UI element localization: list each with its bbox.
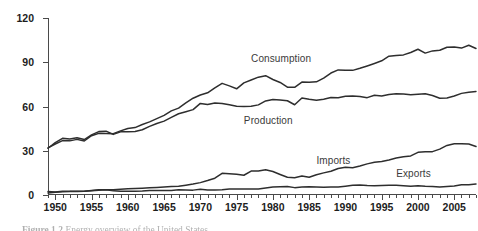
x-tick-major: [164, 195, 165, 200]
caption-text: Energy overview of the United States: [65, 225, 208, 231]
x-tick-major: [418, 195, 419, 200]
x-tick-label: 1960: [116, 201, 139, 213]
x-tick-major: [55, 195, 56, 200]
x-tick-minor: [287, 195, 288, 198]
x-tick-major: [345, 195, 346, 200]
y-tick-label: 60: [22, 101, 34, 113]
x-tick-major: [128, 195, 129, 200]
x-tick-minor: [266, 195, 267, 198]
x-tick-major: [200, 195, 201, 200]
x-tick-minor: [77, 195, 78, 198]
x-tick-minor: [244, 195, 245, 198]
x-tick-minor: [403, 195, 404, 198]
x-tick-label: 1980: [261, 201, 284, 213]
figure-caption: Figure 1.2 Energy overview of the United…: [22, 225, 462, 231]
y-tick-label: 30: [22, 145, 34, 157]
series-label-imports: Imports: [316, 155, 350, 166]
x-tick-minor: [476, 195, 477, 198]
x-tick-minor: [63, 195, 64, 198]
x-tick-minor: [193, 195, 194, 198]
x-tick-minor: [447, 195, 448, 198]
x-tick-label: 1975: [225, 201, 248, 213]
x-tick-minor: [106, 195, 107, 198]
series-label-exports: Exports: [396, 168, 431, 179]
x-tick-minor: [84, 195, 85, 198]
x-tick-label: 1955: [80, 201, 103, 213]
x-tick-minor: [295, 195, 296, 198]
x-tick-minor: [280, 195, 281, 198]
x-tick-minor: [440, 195, 441, 198]
x-tick-minor: [461, 195, 462, 198]
x-tick-major: [273, 195, 274, 200]
y-tick-label: 120: [16, 12, 34, 24]
x-tick-minor: [157, 195, 158, 198]
x-tick-label: 1965: [152, 201, 175, 213]
x-tick-minor: [179, 195, 180, 198]
x-tick-minor: [121, 195, 122, 198]
x-tick-minor: [324, 195, 325, 198]
x-tick-minor: [251, 195, 252, 198]
x-tick-label: 1990: [334, 201, 357, 213]
x-tick-minor: [208, 195, 209, 198]
x-tick-minor: [338, 195, 339, 198]
x-tick-minor: [367, 195, 368, 198]
x-tick-minor: [331, 195, 332, 198]
x-tick-major: [454, 195, 455, 200]
x-tick-minor: [302, 195, 303, 198]
x-tick-minor: [360, 195, 361, 198]
x-tick-minor: [142, 195, 143, 198]
x-tick-minor: [316, 195, 317, 198]
x-tick-label: 2005: [443, 201, 466, 213]
x-tick-minor: [469, 195, 470, 198]
x-tick-minor: [215, 195, 216, 198]
x-tick-minor: [70, 195, 71, 198]
x-tick-minor: [389, 195, 390, 198]
x-tick-major: [309, 195, 310, 200]
x-tick-label: 1995: [370, 201, 393, 213]
x-tick-minor: [150, 195, 151, 198]
x-tick-label: 1950: [44, 201, 67, 213]
series-line-exports: [48, 184, 476, 192]
x-tick-major: [237, 195, 238, 200]
x-tick-minor: [425, 195, 426, 198]
figure-energy-overview: Quadrillion Btu 0306090120 1950195519601…: [0, 0, 478, 231]
x-tick-minor: [135, 195, 136, 198]
x-tick-major: [92, 195, 93, 200]
x-tick-minor: [222, 195, 223, 198]
x-tick-minor: [258, 195, 259, 198]
x-tick-label: 1985: [297, 201, 320, 213]
x-tick-minor: [411, 195, 412, 198]
caption-number: Figure 1.2: [22, 225, 63, 231]
x-tick-minor: [353, 195, 354, 198]
y-tick-label: 90: [22, 56, 34, 68]
x-tick-label: 1970: [189, 201, 212, 213]
series-label-production: Production: [244, 115, 293, 126]
x-tick-minor: [99, 195, 100, 198]
x-tick-minor: [171, 195, 172, 198]
series-label-consumption: Consumption: [251, 53, 311, 64]
x-tick-minor: [396, 195, 397, 198]
x-tick-minor: [432, 195, 433, 198]
x-tick-minor: [186, 195, 187, 198]
x-tick-minor: [48, 195, 49, 198]
x-tick-major: [382, 195, 383, 200]
x-tick-minor: [113, 195, 114, 198]
plot-area: 0306090120 19501955196019651970197519801…: [48, 18, 476, 195]
x-tick-minor: [374, 195, 375, 198]
y-tick-label: 0: [28, 189, 34, 201]
x-tick-minor: [229, 195, 230, 198]
x-tick-label: 2000: [406, 201, 429, 213]
